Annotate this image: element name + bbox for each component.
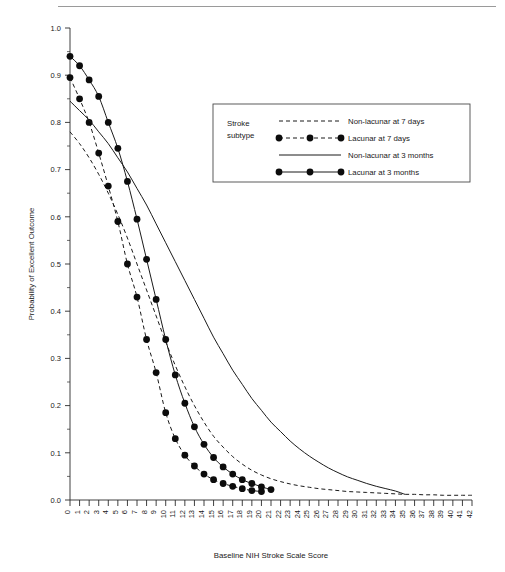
- data-point-marker: [210, 476, 217, 483]
- x-tick-label: 22: [274, 510, 283, 518]
- x-tick-label: 27: [321, 510, 330, 518]
- x-tick-label: 18: [235, 510, 244, 518]
- data-point-marker: [172, 435, 179, 442]
- series-curve: [70, 132, 472, 495]
- legend-entry-label: Lacunar at 7 days: [348, 134, 410, 143]
- y-tick-label: 0.6: [51, 213, 61, 222]
- legend: StrokesubtypeNon-lacunar at 7 daysLacuna…: [213, 104, 470, 182]
- legend-entry-label: Non-lacunar at 7 days: [348, 117, 424, 126]
- data-point-marker: [86, 77, 93, 84]
- x-tick-label: 29: [341, 510, 350, 518]
- series-curve: [70, 101, 405, 494]
- legend-entry[interactable]: Non-lacunar at 7 days: [279, 117, 424, 126]
- x-tick-label: 26: [312, 510, 321, 518]
- legend-marker-sample: [338, 135, 345, 142]
- legend-title-line2: subtype: [227, 131, 254, 140]
- legend-entry[interactable]: Lacunar at 7 days: [276, 134, 410, 143]
- x-tick-label: 9: [149, 510, 158, 514]
- legend-title-line1: Stroke: [227, 119, 250, 128]
- y-tick-label: 1.0: [51, 24, 61, 33]
- x-tick-label: 8: [140, 510, 149, 514]
- legend-entry-label: Non-lacunar at 3 months: [348, 151, 433, 160]
- x-tick-label: 41: [455, 510, 464, 518]
- data-point-marker: [162, 409, 169, 416]
- data-point-marker: [162, 336, 169, 343]
- y-tick-label: 0.8: [51, 118, 61, 127]
- x-tick-label: 33: [379, 510, 388, 518]
- x-tick-label: 2: [82, 510, 91, 514]
- legend-entry[interactable]: Lacunar at 3 months: [276, 168, 420, 177]
- x-tick-label: 23: [283, 510, 292, 518]
- x-tick-label: 0: [63, 510, 72, 514]
- data-point-marker: [143, 256, 150, 263]
- x-tick-label: 20: [254, 510, 263, 518]
- data-point-marker: [220, 480, 227, 487]
- x-tick-label: 36: [408, 510, 417, 518]
- data-point-marker: [258, 483, 265, 490]
- x-tick-label: 19: [245, 510, 254, 518]
- data-point-marker: [210, 454, 217, 461]
- data-point-marker: [153, 296, 160, 303]
- data-point-marker: [124, 261, 131, 268]
- x-axis-title: Baseline NIH Stroke Scale Score: [214, 551, 328, 560]
- y-tick-label: 0.7: [51, 165, 61, 174]
- data-point-marker: [67, 74, 74, 81]
- y-tick-label: 0.1: [51, 449, 61, 458]
- data-point-marker: [134, 294, 141, 301]
- x-tick-label: 16: [216, 510, 225, 518]
- x-tick-label: 24: [293, 510, 302, 518]
- x-tick-label: 39: [436, 510, 445, 518]
- x-tick-label: 11: [168, 510, 177, 518]
- x-tick-label: 42: [465, 510, 474, 518]
- x-tick-label: 7: [130, 510, 139, 514]
- x-tick-label: 25: [302, 510, 311, 518]
- data-point-marker: [67, 53, 74, 60]
- x-tick-label: 32: [369, 510, 378, 518]
- x-tick-label: 17: [226, 510, 235, 518]
- legend-entry[interactable]: Non-lacunar at 3 months: [279, 151, 433, 160]
- x-tick-label: 40: [446, 510, 455, 518]
- x-tick-label: 6: [120, 510, 129, 514]
- y-tick-label: 0.4: [51, 307, 61, 316]
- data-point-marker: [181, 452, 188, 459]
- data-point-marker: [239, 476, 246, 483]
- data-point-marker: [229, 471, 236, 478]
- data-point-marker: [201, 441, 208, 448]
- legend-marker-sample: [307, 135, 314, 142]
- data-point-marker: [143, 336, 150, 343]
- y-tick-label: 0.9: [51, 71, 61, 80]
- series-non-lacunar-at-7-days: [70, 132, 472, 495]
- data-point-marker: [229, 483, 236, 490]
- data-point-marker: [191, 463, 198, 470]
- data-point-marker: [201, 471, 208, 478]
- data-point-marker: [153, 369, 160, 376]
- y-tick-label: 0.0: [51, 496, 61, 505]
- x-tick-label: 4: [101, 510, 110, 514]
- x-tick-label: 38: [427, 510, 436, 518]
- data-point-marker: [191, 423, 198, 430]
- data-point-marker: [220, 464, 227, 471]
- x-tick-label: 31: [360, 510, 369, 518]
- x-tick-label: 1: [73, 510, 82, 514]
- data-point-marker: [76, 62, 83, 69]
- x-tick-label: 34: [388, 510, 397, 518]
- legend-marker-sample: [338, 169, 345, 176]
- x-tick-label: 21: [264, 510, 273, 518]
- data-point-marker: [95, 150, 102, 157]
- data-point-marker: [105, 183, 112, 190]
- data-point-marker: [181, 400, 188, 407]
- data-point-marker: [114, 218, 121, 225]
- data-point-marker: [248, 480, 255, 487]
- x-tick-label: 14: [197, 510, 206, 518]
- data-point-marker: [172, 372, 179, 379]
- data-point-marker: [134, 216, 141, 223]
- figure-container: 0.00.10.20.30.40.50.60.70.80.91.00123456…: [0, 0, 505, 572]
- x-tick-label: 28: [331, 510, 340, 518]
- data-point-marker: [248, 487, 255, 494]
- x-tick-label: 37: [417, 510, 426, 518]
- x-tick-label: 13: [187, 510, 196, 518]
- x-tick-label: 15: [207, 510, 216, 518]
- data-point-marker: [268, 486, 275, 493]
- x-tick-label: 5: [111, 510, 120, 514]
- x-tick-label: 10: [159, 510, 168, 518]
